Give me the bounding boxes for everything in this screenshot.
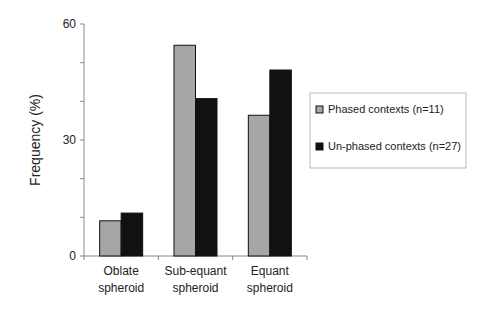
bar-chart: 03060 OblatespheroidSub-equantspheroidEq…: [0, 0, 488, 310]
x-category-label: spheroid: [172, 281, 218, 295]
legend-swatch: [316, 143, 323, 150]
y-tick-label: 60: [63, 17, 77, 31]
y-tick-label: 30: [63, 133, 77, 147]
bars: [100, 45, 292, 256]
x-category-label: spheroid: [98, 281, 144, 295]
legend: Phased contexts (n=11)Un-phased contexts…: [310, 93, 466, 168]
legend-swatch: [316, 106, 323, 113]
x-category-label: spheroid: [247, 281, 293, 295]
x-category-label: Sub-equant: [164, 264, 227, 278]
bar-unphased: [270, 70, 292, 256]
bar-unphased: [121, 213, 142, 256]
legend-label: Phased contexts (n=11): [328, 103, 444, 115]
legend-label: Un-phased contexts (n=27): [328, 140, 461, 152]
labels: OblatespheroidSub-equantspheroidEquantsp…: [98, 264, 293, 295]
x-category-label: Oblate: [103, 264, 139, 278]
y-tick-label: 0: [69, 249, 76, 263]
bar-unphased: [196, 99, 218, 256]
x-category-label: Equant: [251, 264, 290, 278]
y-axis-title: Frequency (%): [27, 94, 43, 186]
bar-phased: [100, 221, 122, 256]
bar-phased: [248, 115, 269, 256]
bar-phased: [174, 45, 196, 256]
